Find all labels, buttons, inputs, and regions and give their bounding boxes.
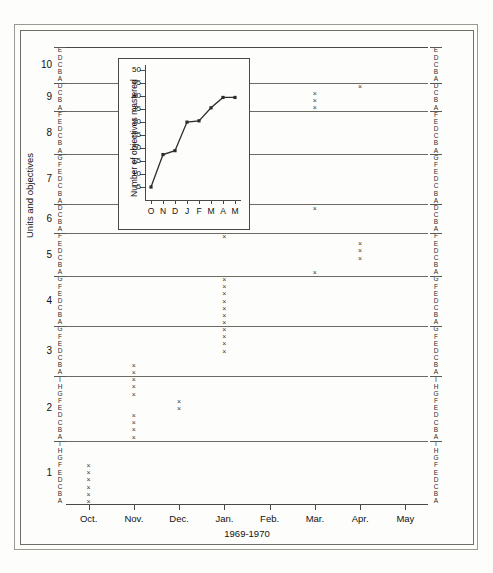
x-axis-tick: [315, 505, 316, 510]
inset-line-chart: Number of objectives mastered 5101520253…: [118, 58, 250, 230]
objective-letter-right: B: [430, 97, 442, 104]
unit-number-column: 12345678910: [28, 47, 52, 505]
objective-letter-left: D: [54, 83, 66, 90]
unit-number-3: 3: [28, 346, 52, 356]
objective-letter-right: E: [430, 405, 442, 412]
objective-letter-left: H: [54, 448, 66, 455]
objective-letter-right: G: [430, 155, 442, 162]
data-point-mark: ×: [85, 484, 92, 491]
inset-y-tick-label: 30: [119, 118, 141, 126]
objective-letter-left: F: [54, 112, 66, 119]
objective-letter-right: B: [430, 69, 442, 76]
objective-letter-right: C: [430, 255, 442, 262]
objective-letter-left: B: [54, 69, 66, 76]
unit-number-5: 5: [28, 250, 52, 260]
objective-letter-left: G: [54, 326, 66, 333]
objective-letter-left: E: [54, 470, 66, 477]
objective-letter-right: D: [430, 205, 442, 212]
data-point-mark: ×: [221, 290, 228, 297]
objective-letter-right: C: [430, 420, 442, 427]
data-point-mark: ×: [221, 340, 228, 347]
objective-letter-left: G: [54, 455, 66, 462]
objective-letter-left: A: [54, 319, 66, 326]
objective-letter-right: A: [430, 148, 442, 155]
objective-letter-left: C: [54, 484, 66, 491]
objective-letter-right: D: [430, 348, 442, 355]
data-point-mark: ×: [311, 90, 318, 97]
data-point-mark: ×: [357, 255, 364, 262]
unit-number-6: 6: [28, 214, 52, 224]
objective-letter-left: D: [54, 298, 66, 305]
objective-letter-left: A: [54, 76, 66, 83]
objective-letter-left: D: [54, 176, 66, 183]
objective-group-rule-right: [430, 204, 442, 205]
objective-letter-right: E: [430, 241, 442, 248]
objective-letter-right: B: [430, 191, 442, 198]
unit-number-9: 9: [28, 92, 52, 102]
objective-letter-right: H: [430, 384, 442, 391]
inset-x-tick: [223, 200, 224, 204]
x-axis-label-6: Apr.: [334, 513, 386, 524]
x-axis-tick: [270, 505, 271, 510]
x-axis-label-2: Dec.: [153, 513, 205, 524]
data-point-mark: ×: [130, 426, 137, 433]
objective-letter-right: G: [430, 326, 442, 333]
inset-y-tick-label: 15: [119, 157, 141, 165]
unit-number-7: 7: [28, 174, 52, 184]
objective-letter-left: B: [54, 191, 66, 198]
objective-letter-left: G: [54, 391, 66, 398]
objective-letter-right: E: [430, 470, 442, 477]
data-point-mark: ×: [221, 276, 228, 283]
objective-letter-right: A: [430, 105, 442, 112]
inset-x-tick: [187, 200, 188, 204]
objective-group-rule-right: [430, 326, 442, 327]
objective-letter-left: C: [54, 183, 66, 190]
inset-x-tick-label: M: [227, 206, 243, 216]
objective-letter-left: G: [54, 155, 66, 162]
objective-group-rule-right: [430, 47, 442, 48]
objective-letter-left: E: [54, 47, 66, 54]
x-axis: Oct.Nov.Dec.Jan.Feb.Mar.Apr.May: [66, 505, 428, 545]
objective-letter-left: D: [54, 348, 66, 355]
inset-y-tick-label: 40: [119, 92, 141, 100]
objective-letter-right: A: [430, 226, 442, 233]
objective-letter-left: D: [54, 55, 66, 62]
objective-letter-right: D: [430, 126, 442, 133]
unit-separator-line: [66, 441, 428, 442]
x-axis-tick: [405, 505, 406, 510]
objective-letter-right: C: [430, 62, 442, 69]
objective-letter-left: C: [54, 90, 66, 97]
data-point-mark: ×: [85, 476, 92, 483]
objective-letter-left: C: [54, 133, 66, 140]
unit-separator-line: [66, 326, 428, 327]
objective-letter-right: E: [430, 47, 442, 54]
objective-group-rule-left: [54, 204, 66, 205]
data-point-mark: ×: [311, 205, 318, 212]
data-point-mark: ×: [221, 312, 228, 319]
objective-group-rule-left: [54, 111, 66, 112]
objective-letter-left: B: [54, 262, 66, 269]
objective-letter-left: D: [54, 248, 66, 255]
inset-y-tick-label: 45: [119, 79, 141, 87]
inset-x-tick: [175, 200, 176, 204]
objective-group-rule-left: [54, 276, 66, 277]
x-axis-label-5: Mar.: [289, 513, 341, 524]
objective-letter-right: D: [430, 176, 442, 183]
x-axis-tick: [179, 505, 180, 510]
objective-letters-right-axis: ABCDEFGHIABCDEFGHIABCDEFGABCDEFGABCDEFAB…: [430, 47, 442, 505]
objective-letter-left: D: [54, 126, 66, 133]
objective-letter-left: A: [54, 105, 66, 112]
objective-letter-right: G: [430, 391, 442, 398]
objective-letter-right: E: [430, 119, 442, 126]
objective-letter-left: F: [54, 284, 66, 291]
x-axis-caption: 1969-1970: [66, 528, 428, 539]
data-point-mark: ×: [130, 376, 137, 383]
objective-letter-right: B: [430, 362, 442, 369]
objective-letter-right: G: [430, 455, 442, 462]
objective-letter-left: A: [54, 198, 66, 205]
figure-page: Units and objectives 12345678910 ABCDEFG…: [0, 0, 493, 573]
objective-letter-right: A: [430, 369, 442, 376]
inset-x-tick: [199, 200, 200, 204]
objective-letter-right: H: [430, 448, 442, 455]
data-point-mark: ×: [311, 269, 318, 276]
